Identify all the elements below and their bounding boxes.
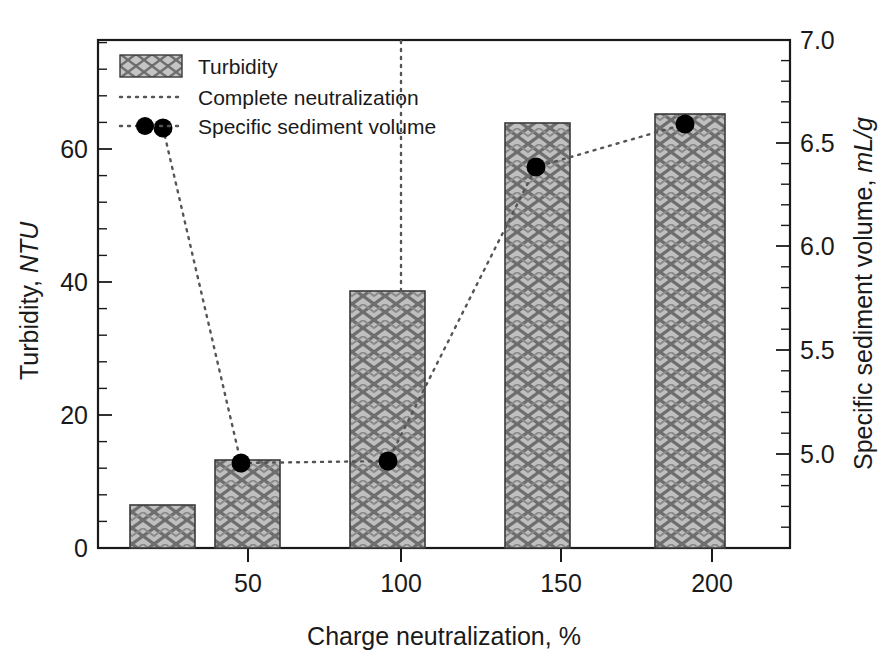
y-tick-20: 20 (60, 401, 88, 429)
svg-text:Turbidity, NTU: Turbidity, NTU (15, 221, 43, 380)
svg-text:Specific sediment volume, mL/g: Specific sediment volume, mL/g (849, 117, 877, 470)
y2-tick-6-5: 6.5 (800, 129, 835, 157)
x-tick-50: 50 (234, 569, 262, 597)
bar-turbidity-2 (215, 460, 280, 548)
ssv-marker-2 (232, 454, 251, 473)
y-axis-title-main: Turbidity, (15, 273, 43, 380)
x-tick-150: 150 (540, 569, 582, 597)
y2-tick-7-0: 7.0 (800, 26, 835, 54)
chart-figure: 0 20 40 60 Turbidity, NTU (0, 0, 882, 665)
legend-label-turbidity: Turbidity (198, 55, 278, 78)
legend-marker-specific-sediment-volume (136, 117, 154, 135)
y2-tick-5-5: 5.5 (800, 336, 835, 364)
y-tick-40: 40 (60, 268, 88, 296)
y2-axis-title-units: mL/g (849, 117, 877, 173)
x-tick-100: 100 (380, 569, 422, 597)
y-tick-60: 60 (60, 135, 88, 163)
legend-swatch-turbidity (120, 55, 182, 77)
y2-axis-title-main: Specific sediment volume, (849, 173, 877, 470)
y2-tick-5-0: 5.0 (800, 440, 835, 468)
x-axis-title: Charge neutralization, % (307, 622, 581, 650)
ssv-marker-4 (527, 158, 546, 177)
ssv-marker-1 (154, 119, 173, 138)
x-axis-ticks (248, 548, 712, 562)
bar-turbidity-5 (655, 114, 725, 548)
y-axis-title-units: NTU (15, 221, 43, 273)
y-axis-title: Turbidity, NTU (15, 221, 43, 380)
x-tick-200: 200 (691, 569, 733, 597)
ssv-marker-5 (676, 115, 695, 134)
y2-tick-6-0: 6.0 (800, 232, 835, 260)
x-axis-tick-labels: 50 100 150 200 (234, 569, 733, 597)
y2-axis-tick-labels: 5.0 5.5 6.0 6.5 7.0 (800, 26, 835, 468)
y-axis-tick-labels: 0 20 40 60 (60, 135, 88, 562)
bar-turbidity-1 (130, 505, 195, 548)
y2-axis-title: Specific sediment volume, mL/g (849, 117, 877, 470)
bar-turbidity-4 (505, 123, 570, 548)
ssv-marker-3 (379, 452, 398, 471)
legend-label-specific-sediment-volume: Specific sediment volume (198, 115, 436, 138)
bar-turbidity-3 (350, 291, 425, 548)
y-tick-0: 0 (74, 534, 88, 562)
legend-label-complete-neutralization: Complete neutralization (198, 86, 419, 109)
